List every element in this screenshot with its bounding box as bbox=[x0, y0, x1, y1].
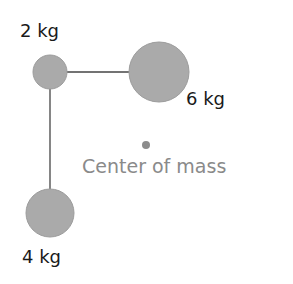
label-6kg: 6 kg bbox=[186, 90, 225, 108]
mass-2kg bbox=[33, 55, 67, 89]
center-of-mass-label: Center of mass bbox=[82, 157, 226, 176]
mass-6kg bbox=[129, 42, 189, 102]
mass-diagram bbox=[0, 0, 293, 284]
center-of-mass-dot bbox=[142, 141, 150, 149]
label-2kg: 2 kg bbox=[20, 22, 59, 40]
mass-4kg bbox=[26, 189, 74, 237]
label-4kg: 4 kg bbox=[22, 248, 61, 266]
